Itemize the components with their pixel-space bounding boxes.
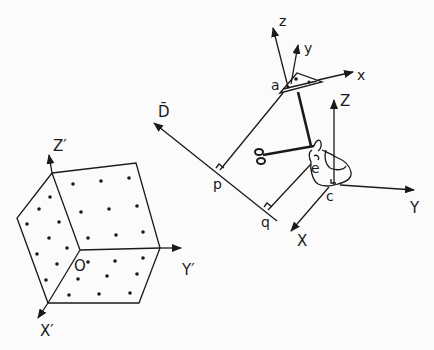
world-y-label: Y	[409, 199, 420, 217]
world-z-label: Z	[340, 92, 350, 110]
tool-rod	[298, 92, 311, 146]
lattice-cube	[17, 163, 160, 303]
triangle-dot-2	[308, 81, 311, 84]
z-prime-label: Z′	[53, 137, 67, 155]
tool-x-label: x	[357, 67, 365, 83]
cube-edge-right	[80, 248, 160, 250]
scissors-loop-top	[255, 149, 263, 155]
tool-z-label: z	[279, 13, 286, 29]
triangle-pointer	[280, 73, 322, 93]
p-label: p	[213, 176, 222, 192]
d-bar-arrow	[154, 123, 277, 221]
tool-y-label: y	[304, 40, 312, 56]
cube-edge-up	[52, 173, 80, 250]
origin-o-label: O	[74, 257, 86, 275]
point-a-label: a	[271, 77, 280, 93]
world-x-axis-arrow	[291, 187, 329, 231]
direction-vector	[154, 93, 311, 221]
x-prime-label: X′	[40, 322, 54, 340]
cube-outline	[17, 163, 160, 303]
tool-x-axis-arrow	[318, 72, 353, 80]
hand-thumb	[314, 140, 321, 151]
world-origin-c-label: c	[326, 188, 334, 204]
scissors-loop-bottom	[257, 158, 265, 164]
scissors-rod	[263, 146, 314, 155]
lattice-dots-left-face	[25, 195, 69, 282]
cube-axes	[38, 155, 181, 318]
tool-frame	[273, 28, 353, 93]
q-label: q	[261, 214, 270, 230]
y-prime-label: Y′	[181, 261, 195, 279]
right-angle-marker-q	[264, 203, 272, 207]
eye-point-e-label: e	[311, 160, 320, 176]
point-a-dot	[287, 86, 290, 89]
projection-line-a-p	[220, 93, 283, 170]
tool-handle	[255, 92, 314, 164]
z-prime-axis-arrow	[49, 155, 52, 173]
diagram-canvas: Z′ Y′ X′ O D̄ p q z y x a	[0, 0, 434, 350]
world-y-axis-arrow	[340, 185, 414, 190]
d-bar-label: D̄	[158, 102, 170, 121]
projection-line-e-q	[268, 164, 311, 210]
triangle-dot-1	[294, 77, 298, 81]
x-prime-axis-arrow	[38, 303, 48, 318]
world-x-label: X	[297, 232, 307, 250]
lattice-dots-top-face	[71, 176, 145, 240]
